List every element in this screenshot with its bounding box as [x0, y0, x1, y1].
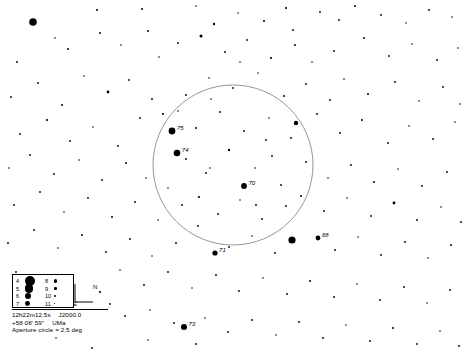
- magnitude-value: 7: [16, 300, 25, 308]
- magnitude-dot: [54, 303, 55, 304]
- star-marker: [323, 210, 325, 212]
- star-marker: [147, 339, 149, 341]
- star-marker: [134, 201, 136, 203]
- star-marker: [316, 113, 318, 115]
- star-marker: [432, 138, 434, 140]
- star-marker: [228, 149, 230, 151]
- labeled-star-marker: [181, 324, 187, 330]
- star-marker: [405, 22, 407, 24]
- star-marker: [158, 56, 160, 58]
- star-marker: [450, 244, 452, 246]
- star-marker: [185, 94, 187, 96]
- star-marker: [162, 113, 164, 115]
- star-marker: [440, 206, 442, 208]
- star-marker: [96, 9, 98, 11]
- star-marker: [388, 55, 390, 57]
- star-marker: [67, 48, 69, 50]
- star-marker: [271, 155, 273, 157]
- star-marker: [198, 196, 200, 198]
- star-marker: [219, 111, 221, 113]
- star-marker: [322, 337, 324, 339]
- star-marker: [29, 154, 31, 156]
- star-marker: [451, 16, 453, 18]
- star-marker: [227, 331, 229, 333]
- star-marker: [446, 171, 448, 173]
- star-marker: [370, 215, 372, 217]
- star-marker: [87, 197, 89, 199]
- magnitude-value: 11: [45, 300, 54, 308]
- star-marker: [449, 289, 451, 291]
- star-marker: [8, 167, 10, 169]
- compass-east-label: E: [73, 301, 77, 307]
- star-marker: [428, 9, 430, 11]
- star-marker: [181, 204, 183, 206]
- star-marker: [363, 37, 365, 39]
- star-marker: [124, 315, 126, 317]
- right-ascension-value: 12h22m12.5s: [12, 311, 51, 318]
- star-marker: [101, 179, 103, 181]
- star-marker: [294, 44, 296, 46]
- caption-divider: [12, 309, 108, 310]
- star-marker: [63, 211, 65, 213]
- magnitude-legend-cell: 11: [45, 300, 73, 308]
- star-marker: [268, 117, 270, 119]
- star-marker: [427, 257, 429, 259]
- star-marker: [411, 43, 413, 45]
- star-marker: [175, 242, 177, 244]
- star-chart-root: 757470716873 4859610711 N E 12h22m12.5sJ…: [0, 0, 467, 352]
- magnitude-legend: 4859610711: [12, 274, 74, 308]
- star-marker: [53, 173, 55, 175]
- star-marker: [99, 32, 101, 34]
- star-marker: [343, 78, 345, 80]
- star-marker: [224, 51, 226, 53]
- star-marker: [91, 347, 93, 349]
- star-marker: [454, 121, 456, 123]
- star-marker: [10, 96, 12, 98]
- star-marker: [232, 87, 234, 89]
- star-marker: [37, 82, 39, 84]
- dec-constellation-line: +58 08' 59"UMa: [12, 319, 122, 327]
- star-marker: [139, 117, 141, 119]
- star-marker: [394, 81, 396, 83]
- star-marker: [379, 299, 381, 301]
- star-marker: [246, 39, 248, 41]
- star-marker: [251, 319, 253, 321]
- star-marker: [254, 167, 256, 169]
- star-marker: [288, 236, 295, 243]
- star-marker: [61, 104, 63, 106]
- star-marker: [367, 93, 369, 95]
- star-marker: [338, 19, 340, 21]
- star-marker: [239, 199, 241, 201]
- magnitude-dot: [25, 293, 31, 299]
- star-marker: [369, 340, 371, 342]
- star-marker: [255, 204, 257, 206]
- star-marker: [195, 5, 197, 7]
- star-marker: [357, 236, 359, 238]
- star-marker: [128, 79, 130, 81]
- star-marker: [392, 327, 394, 329]
- star-marker: [157, 219, 159, 221]
- star-marker: [274, 252, 276, 254]
- star-marker: [238, 290, 240, 292]
- star-marker: [213, 23, 215, 25]
- star-label-75: 75: [177, 125, 184, 131]
- star-marker: [329, 99, 331, 101]
- star-marker: [373, 181, 375, 183]
- star-marker: [333, 50, 335, 52]
- star-marker: [380, 254, 382, 256]
- star-marker: [286, 293, 288, 295]
- star-marker: [239, 61, 241, 63]
- star-marker: [151, 98, 153, 100]
- star-marker: [339, 132, 341, 134]
- star-marker: [39, 191, 41, 193]
- star-marker: [292, 29, 294, 31]
- star-marker: [311, 61, 313, 63]
- star-marker: [195, 127, 197, 129]
- star-marker: [119, 269, 121, 271]
- star-marker: [185, 158, 187, 160]
- star-marker: [408, 125, 410, 127]
- star-marker: [177, 42, 179, 44]
- aperture-caption: Aperture circle = 2.5 deg: [12, 326, 122, 334]
- star-marker: [204, 317, 206, 319]
- aperture-circle: [153, 85, 313, 245]
